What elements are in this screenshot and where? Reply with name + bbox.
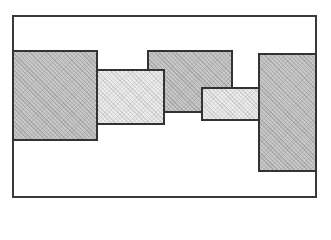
rectangle-a [12, 50, 98, 141]
rectangle-b [96, 69, 165, 125]
rectangle-d [201, 87, 260, 121]
rectangle-e [258, 53, 317, 172]
